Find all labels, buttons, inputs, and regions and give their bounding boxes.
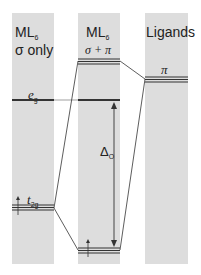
mo-diagram-lines <box>0 0 201 275</box>
